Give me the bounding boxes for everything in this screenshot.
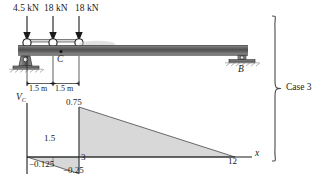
point-c-label: C bbox=[57, 54, 63, 64]
load-label-2: 18 kN bbox=[44, 3, 68, 13]
y-axis-subscript: C bbox=[22, 96, 26, 103]
positive-shear-region bbox=[79, 107, 235, 157]
case-brace bbox=[272, 16, 281, 161]
load-arrow-2 bbox=[50, 16, 56, 40]
load-arrow-3 bbox=[76, 16, 82, 40]
case-label: Case 3 bbox=[286, 82, 312, 92]
pin-support-a bbox=[9, 56, 44, 72]
value-label-neg-small: −0.125 bbox=[29, 159, 54, 169]
point-c-marker bbox=[60, 50, 63, 53]
dimension-lines bbox=[27, 56, 79, 86]
support-b-label: B bbox=[238, 64, 244, 74]
load-label-1: 4.5 kN bbox=[13, 3, 39, 13]
engineering-figure: 4.5 kN 18 kN 18 kN C B 1.5 m 1.5 m VC x … bbox=[0, 0, 328, 177]
value-label-peak-positive: 0.75 bbox=[66, 97, 82, 107]
dimension-label-2: 1.5 m bbox=[55, 84, 73, 93]
load-arrow-1 bbox=[24, 16, 30, 40]
station-label-12: 12 bbox=[228, 156, 237, 166]
dimension-label-1: 1.5 m bbox=[29, 84, 47, 93]
load-label-3: 18 kN bbox=[75, 3, 99, 13]
value-label-neg-large: −0.25 bbox=[63, 165, 84, 175]
value-label-left-positive: 1.5 bbox=[44, 133, 55, 143]
station-label-3: 3 bbox=[81, 152, 86, 162]
y-axis-label: VC bbox=[16, 92, 26, 103]
beam bbox=[18, 46, 248, 56]
x-axis-label: x bbox=[255, 148, 259, 158]
figure-canvas bbox=[0, 0, 328, 177]
